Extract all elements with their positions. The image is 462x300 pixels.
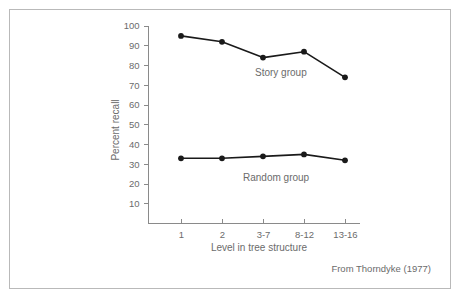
y-tick-label: 40: [129, 139, 140, 150]
y-tick-label: 80: [129, 60, 140, 71]
y-tick-label: 100: [124, 20, 140, 31]
series-random-group: [178, 151, 348, 163]
x-tick-label: 8-12: [295, 229, 314, 240]
data-point: [260, 153, 266, 159]
x-tick-label: 3-7: [257, 229, 271, 240]
y-tick-label: 70: [129, 80, 140, 91]
y-tick-label: 30: [129, 159, 140, 170]
series-label-story-group: Story group: [255, 67, 307, 78]
data-point: [178, 33, 184, 39]
y-tick-label: 90: [129, 40, 140, 51]
data-point: [301, 151, 307, 157]
y-axis: 102030405060708090100 Percent recall: [110, 20, 149, 224]
data-point: [301, 49, 307, 55]
x-axis-tick-labels: 123-78-1213-16: [179, 229, 358, 240]
y-tick-label: 50: [129, 119, 140, 130]
y-tick-label: 60: [129, 99, 140, 110]
y-axis-tick-labels: 102030405060708090100: [124, 20, 140, 209]
y-axis-title: Percent recall: [110, 99, 121, 160]
data-point: [260, 55, 266, 61]
data-point: [219, 155, 225, 161]
attribution-text: From Thorndyke (1977): [331, 263, 431, 274]
x-tick-label: 13-16: [333, 229, 357, 240]
data-point: [342, 157, 348, 163]
y-tick-label: 10: [129, 198, 140, 209]
data-series-layer: [178, 33, 348, 163]
data-point: [178, 155, 184, 161]
x-axis-ticks: [182, 219, 346, 224]
x-tick-label: 1: [179, 229, 184, 240]
data-point: [219, 39, 225, 45]
data-point: [342, 74, 348, 80]
x-tick-label: 2: [220, 229, 225, 240]
x-axis: 123-78-1213-16 Level in tree structure: [149, 219, 361, 254]
line-chart: 102030405060708090100 Percent recall 123…: [0, 0, 462, 300]
x-axis-title: Level in tree structure: [211, 242, 308, 253]
y-tick-label: 20: [129, 178, 140, 189]
series-label-random-group: Random group: [243, 172, 310, 183]
y-axis-ticks: [144, 26, 149, 204]
